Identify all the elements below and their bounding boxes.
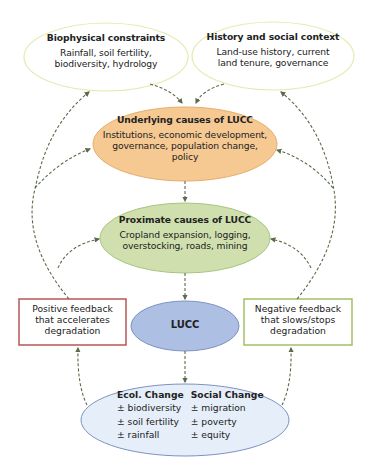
change-columns: Ecol. Change ± biodiversity ± soil ferti…	[117, 388, 264, 441]
social-change-item: ± poverty	[191, 415, 264, 428]
edge-biophysical-to-underlying	[150, 84, 182, 103]
edge-change-to-negative	[282, 348, 291, 405]
social-change-item: ± migration	[191, 401, 264, 414]
social-change-column: Social Change ± migration ± poverty ± eq…	[191, 388, 264, 441]
edge-history-to-underlying	[196, 84, 224, 103]
edge-positive-branch-proximate	[58, 239, 99, 268]
negative-feedback-line-1: Negative feedback	[244, 303, 352, 314]
negative-feedback-label: Negative feedback that slows/stops degra…	[244, 303, 352, 336]
ecological-change-header: Ecol. Change	[117, 388, 184, 401]
proximate-body-line-2: overstocking, roads, mining	[100, 240, 270, 251]
ecological-change-item: ± rainfall	[117, 428, 184, 441]
biophysical-body-line-2: biodiversity, hydrology	[26, 58, 186, 69]
ecological-change-item: ± biodiversity	[117, 401, 184, 414]
proximate-body-line-1: Cropland expansion, logging,	[100, 229, 270, 240]
ecological-change-column: Ecol. Change ± biodiversity ± soil ferti…	[117, 388, 184, 441]
proximate-label: Proximate causes of LUCC Cropland expans…	[100, 214, 270, 251]
social-change-header: Social Change	[191, 388, 264, 401]
history-body-line-1: Land-use history, current	[193, 46, 353, 57]
history-body-line-2: land tenure, governance	[193, 57, 353, 68]
biophysical-title: Biophysical constraints	[26, 32, 186, 43]
proximate-title: Proximate causes of LUCC	[100, 214, 270, 225]
edge-positive-to-biophysical	[32, 92, 89, 299]
negative-feedback-line-2: that slows/stops	[244, 314, 352, 325]
underlying-title: Underlying causes of LUCC	[90, 114, 280, 125]
underlying-body-line-1: Institutions, economic development,	[90, 129, 280, 140]
biophysical-body-line-1: Rainfall, soil fertility,	[26, 47, 186, 58]
edge-negative-to-history	[281, 92, 335, 299]
history-title: History and social context	[193, 31, 353, 42]
positive-feedback-line-3: degradation	[19, 325, 126, 336]
underlying-body-line-2: governance, population change,	[90, 140, 280, 151]
positive-feedback-label: Positive feedback that accelerates degra…	[19, 303, 126, 336]
social-change-item: ± equity	[191, 428, 264, 441]
diagram-canvas: Biophysical constraints Rainfall, soil f…	[0, 0, 369, 467]
edge-negative-branch-proximate	[271, 239, 311, 268]
edge-positive-branch-underlying	[35, 149, 90, 188]
biophysical-label: Biophysical constraints Rainfall, soil f…	[26, 32, 186, 69]
edge-negative-branch-underlying	[277, 150, 333, 188]
ecological-change-item: ± soil fertility	[117, 415, 184, 428]
positive-feedback-line-1: Positive feedback	[19, 303, 126, 314]
underlying-body-line-3: policy	[90, 151, 280, 162]
lucc-title: LUCC	[135, 319, 235, 331]
underlying-label: Underlying causes of LUCC Institutions, …	[90, 114, 280, 162]
history-label: History and social context Land-use hist…	[193, 31, 353, 68]
negative-feedback-line-3: degradation	[244, 325, 352, 336]
edge-change-to-positive	[78, 348, 87, 405]
positive-feedback-line-2: that accelerates	[19, 314, 126, 325]
